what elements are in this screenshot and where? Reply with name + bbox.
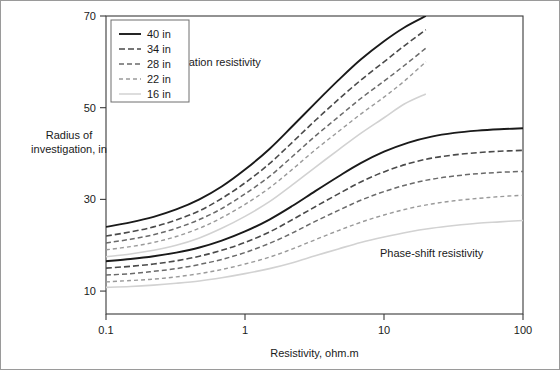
legend-label-22-in: 22 in xyxy=(147,73,171,85)
legend: 40 in34 in28 in22 in16 in xyxy=(111,20,189,102)
figure-container: 0.111010010305070Resistivity, ohm.mRadiu… xyxy=(0,0,560,370)
y-axis-title-line2: investigation, in xyxy=(31,143,107,155)
legend-label-40-in: 40 in xyxy=(147,28,171,40)
x-tick-label: 10 xyxy=(378,324,390,336)
x-tick-label: 100 xyxy=(514,324,532,336)
legend-label-34-in: 34 in xyxy=(147,43,171,55)
y-tick-label: 50 xyxy=(84,102,96,114)
x-axis: 0.1110100 xyxy=(98,314,532,336)
x-tick-label: 1 xyxy=(242,324,248,336)
x-axis-title: Resistivity, ohm.m xyxy=(270,347,358,359)
y-tick-label: 70 xyxy=(84,10,96,22)
y-tick-label: 10 xyxy=(84,285,96,297)
curve-40-in xyxy=(106,128,523,261)
chart-annotation: Phase-shift resistivity xyxy=(380,247,484,259)
curve-16-in xyxy=(106,94,426,257)
y-tick-label: 30 xyxy=(84,193,96,205)
curve-group-phase-shift-resistivity xyxy=(106,128,523,287)
y-axis-title: Radius of xyxy=(46,129,93,141)
chart-canvas: 0.111010010305070Resistivity, ohm.mRadiu… xyxy=(1,1,560,370)
legend-label-28-in: 28 in xyxy=(147,58,171,70)
x-tick-label: 0.1 xyxy=(98,324,113,336)
legend-label-16-in: 16 in xyxy=(147,88,171,100)
